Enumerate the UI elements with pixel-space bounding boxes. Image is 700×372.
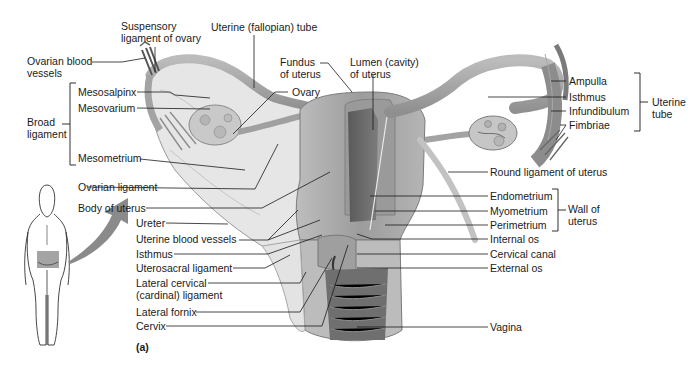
label-lumen-of-uterus: Lumen (cavity) of uterus [350,56,419,80]
label-cervical-canal: Cervical canal [490,248,556,260]
label-ampulla: Ampulla [569,75,607,87]
label-line: Lumen (cavity) [350,56,419,68]
label-internal-os: Internal os [490,233,539,245]
label-ureter: Ureter [136,217,165,229]
label-mesometrium: Mesometrium [78,152,142,164]
label-line: vessels [27,67,92,79]
label-ovary: Ovary [292,86,320,98]
label-endometrium: Endometrium [490,190,552,202]
label-ovarian-ligament: Ovarian ligament [78,181,157,193]
uterine-tube-bracket [634,73,648,131]
label-line: uterus [568,215,600,227]
label-line: of uterus [280,68,321,80]
label-line: Ovarian blood [27,55,92,67]
label-line: Wall of [568,203,600,215]
label-isthmus-uterus: Isthmus [136,248,173,260]
label-infundibulum: Infundibulum [569,105,629,117]
label-line: Suspensory [121,20,201,32]
label-line: Fundus [280,56,321,68]
right-ovary [469,116,517,150]
label-line: tube [652,108,686,120]
label-suspensory-ligament: Suspensory ligament of ovary [121,20,201,44]
label-line: of uterus [350,68,419,80]
label-line: Broad [27,116,67,128]
label-fundus-of-uterus: Fundus of uterus [280,56,321,80]
label-lateral-fornix: Lateral fornix [136,306,197,318]
label-round-ligament: Round ligament of uterus [490,166,607,178]
label-fimbriae: Fimbriae [569,119,610,131]
label-cervix: Cervix [136,320,166,332]
label-line: Lateral cervical [136,277,222,289]
label-line: ligament of ovary [121,32,201,44]
label-myometrium: Myometrium [490,205,548,217]
label-line: ligament [27,128,67,140]
panel-label: (a) [136,341,149,353]
label-uterine-blood-vessels: Uterine blood vessels [136,233,236,245]
label-uterine-fallopian-tube: Uterine (fallopian) tube [211,21,317,33]
pelvis-highlight [37,251,59,268]
label-line: (cardinal) ligament [136,289,222,301]
label-wall-of-uterus-group: Wall of uterus [568,203,600,227]
label-perimetrium: Perimetrium [490,219,547,231]
label-broad-ligament: Broad ligament [27,116,67,140]
cervix-vagina [262,235,402,340]
label-vagina: Vagina [490,321,522,333]
label-uterosacral-ligament: Uterosacral ligament [136,262,232,274]
wall-of-uterus-bracket [552,189,566,231]
label-line: Uterine [652,96,686,108]
label-isthmus-tube: Isthmus [569,91,606,103]
label-lateral-cervical-ligament: Lateral cervical (cardinal) ligament [136,277,222,301]
label-ovarian-blood-vessels: Ovarian blood vessels [27,55,92,79]
label-body-of-uterus: Body of uterus [78,202,146,214]
label-external-os: External os [490,262,543,274]
label-mesovarium: Mesovarium [78,102,135,114]
label-mesosalpinx: Mesosalpinx [78,86,136,98]
label-uterine-tube-group: Uterine tube [652,96,686,120]
